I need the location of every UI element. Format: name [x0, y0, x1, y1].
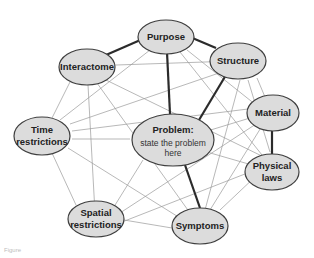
node-purpose-label: Purpose	[147, 31, 185, 42]
node-problem-line1: state the problem	[140, 138, 206, 148]
edge-interactome-spatial	[88, 85, 95, 213]
node-problem: Problem: state the problem here	[132, 114, 214, 166]
edge-purpose-problem	[167, 52, 170, 114]
node-spatial-label-line1: Spatial	[80, 207, 111, 218]
node-time-label-line1: Time	[31, 124, 53, 135]
node-problem-line2: here	[164, 148, 181, 158]
node-material-label: Material	[255, 107, 291, 118]
edge-time-spatial	[52, 153, 76, 205]
node-material: Material	[247, 95, 299, 131]
problem-network-diagram: Purpose Interactome Structure Time restr…	[0, 0, 314, 258]
edge-structure-material	[257, 78, 265, 97]
node-purpose: Purpose	[138, 20, 194, 54]
node-symptoms-label: Symptoms	[176, 220, 225, 231]
node-spatial-label-line2: restrictions	[70, 219, 122, 230]
node-structure-label: Structure	[217, 55, 259, 66]
figure-caption: Figure	[4, 247, 21, 253]
node-physical-label-line2: laws	[262, 172, 283, 183]
edge-spatial-symptoms	[124, 220, 172, 228]
node-time-restrictions: Time restrictions	[14, 117, 70, 155]
edge-problem-symptoms	[185, 165, 200, 208]
node-physical-label-line1: Physical	[253, 160, 292, 171]
node-interactome-label: Interactome	[60, 61, 114, 72]
node-spatial-restrictions: Spatial restrictions	[68, 201, 124, 237]
node-time-label-line2: restrictions	[16, 136, 68, 147]
edge-interactome-time	[52, 82, 70, 118]
node-structure: Structure	[210, 43, 266, 79]
edge-problem-spatial	[112, 160, 143, 210]
node-problem-title: Problem:	[152, 124, 193, 135]
node-symptoms: Symptoms	[172, 208, 228, 244]
node-physical-laws: Physical laws	[245, 154, 299, 190]
node-interactome: Interactome	[59, 49, 115, 85]
